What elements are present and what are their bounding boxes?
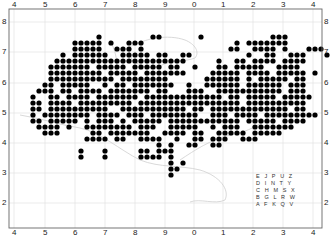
axis-label: 9 [163,1,167,9]
axis-label: 0 [192,1,196,9]
axis-label: 6 [73,229,77,237]
axis-label: 5 [43,1,47,9]
axis-label: 8 [2,18,6,26]
axis-label: 6 [2,79,6,87]
tetrad-letter-key: E J P U Z D I N T Y C H M S X B G L R W … [256,173,296,208]
axis-label: 7 [324,48,328,56]
axis-label: 2 [2,199,6,207]
axis-label: 5 [324,109,328,117]
legend-row: B G L R W [256,194,296,201]
axis-label: 6 [73,1,77,9]
axis-label: 4 [324,139,328,147]
axis-label: 4 [12,229,16,237]
axis-label: 7 [103,1,107,9]
axis-label: 2 [324,199,328,207]
axis-label: 3 [2,169,6,177]
axis-label: 5 [43,229,47,237]
axis-label: 4 [12,1,16,9]
axis-label: 1 [221,229,225,237]
axis-label: 8 [133,1,137,9]
axis-label: 7 [2,48,6,56]
legend-row: E J P U Z [256,173,296,180]
axis-label: 6 [324,79,328,87]
axis-label: 2 [251,229,255,237]
legend-row: A F K Q V [256,201,296,208]
axis-label: 4 [2,139,6,147]
axis-label: 8 [324,18,328,26]
axis-label: 3 [281,229,285,237]
axis-label: 3 [324,169,328,177]
legend-row: C H M S X [256,187,296,194]
axis-label: 4 [311,229,315,237]
legend-row: D I N T Y [256,180,296,187]
axis-label: 1 [221,1,225,9]
axis-label: 4 [311,1,315,9]
axis-label: 5 [2,109,6,117]
axis-label: 3 [281,1,285,9]
axis-label: 0 [192,229,196,237]
axis-label: 9 [163,229,167,237]
axis-label: 8 [133,229,137,237]
axis-label: 7 [103,229,107,237]
axis-label: 2 [251,1,255,9]
